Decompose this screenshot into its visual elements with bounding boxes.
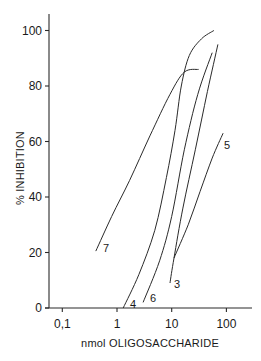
x-tick-label: 1 xyxy=(114,317,121,331)
x-tick-label: 0,1 xyxy=(54,317,71,331)
y-tick-label: 0 xyxy=(35,301,42,315)
curve-label-4: 4 xyxy=(130,298,136,310)
x-axis-title: nmol OLIGOSACCHARIDE xyxy=(81,337,219,349)
y-tick-label: 60 xyxy=(29,135,43,149)
curve-label-6: 6 xyxy=(150,292,156,304)
curves xyxy=(96,31,223,309)
curve-5 xyxy=(174,133,223,258)
y-tick-label: 20 xyxy=(29,246,43,260)
y-tick-label: 100 xyxy=(22,24,42,38)
curve-label-7: 7 xyxy=(103,242,109,254)
y-tick-label: 80 xyxy=(29,79,43,93)
curve-label-3: 3 xyxy=(174,278,180,290)
y-tick-label: 40 xyxy=(29,190,43,204)
axes: 0204060801000,1110100 xyxy=(22,14,252,331)
y-axis-title: % INHIBITION xyxy=(14,131,26,205)
curve-7 xyxy=(96,69,199,251)
curve-6 xyxy=(143,53,212,303)
chart: 0204060801000,1110100 34567 nmol OLIGOSA… xyxy=(0,0,261,361)
curve-labels: 34567 xyxy=(103,139,230,310)
x-tick-label: 100 xyxy=(216,317,236,331)
curve-3 xyxy=(170,44,218,283)
curve-4 xyxy=(123,31,214,309)
curve-label-5: 5 xyxy=(224,139,230,151)
x-tick-label: 10 xyxy=(165,317,179,331)
